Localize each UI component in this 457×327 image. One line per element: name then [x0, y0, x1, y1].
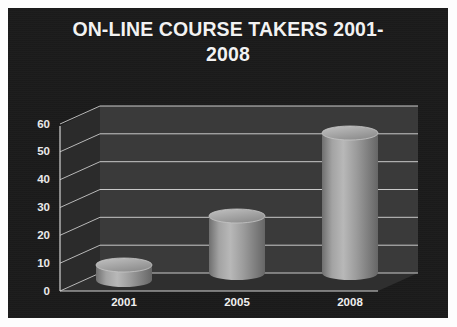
bar-2008[interactable] — [322, 126, 378, 280]
x-tick-2001: 2001 — [89, 296, 159, 308]
plot-svg — [8, 8, 448, 318]
x-tick-2008: 2008 — [315, 296, 385, 308]
bar-2001[interactable] — [96, 258, 152, 287]
chart-root: ON-LINE COURSE TAKERS 2001- 2008 — [0, 0, 457, 327]
x-tick-2005: 2005 — [202, 296, 272, 308]
y-tick-0: 0 — [22, 285, 50, 297]
plot-area: 60 50 40 30 20 10 0 2001 2005 2008 — [8, 8, 448, 318]
chart-panel: ON-LINE COURSE TAKERS 2001- 2008 — [8, 8, 448, 318]
y-tick-60: 60 — [22, 118, 50, 130]
y-tick-40: 40 — [22, 173, 50, 185]
y-tick-10: 10 — [22, 257, 50, 269]
y-tick-20: 20 — [22, 229, 50, 241]
y-tick-50: 50 — [22, 145, 50, 157]
y-tick-30: 30 — [22, 201, 50, 213]
bar-2005[interactable] — [209, 209, 265, 280]
